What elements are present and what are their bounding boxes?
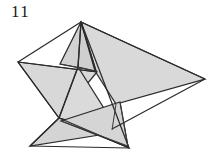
edge-bottom-left-tip-to-bottom-tip: [30, 146, 129, 148]
figure-container: 11: [0, 0, 217, 161]
geometric-figure-drawing: [0, 0, 217, 161]
face-large-right-triangle: [81, 22, 205, 104]
